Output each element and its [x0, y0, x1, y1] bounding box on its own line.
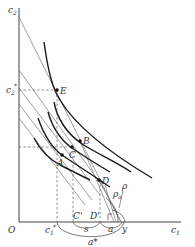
c2-star-sup: *: [14, 82, 17, 89]
c1-star-sub: 1: [50, 229, 54, 236]
label-E: E: [59, 86, 67, 96]
x-axis-label-sub: 1: [176, 229, 180, 236]
label-A: A: [56, 158, 64, 168]
c1-star-sup: *: [53, 223, 56, 230]
c2-star-sub: 2: [10, 89, 15, 96]
y-label: y: [121, 224, 128, 234]
indifference-curve-diagram: E B C A D c 2 c 1 O c 2 * c 1 * C' D' s …: [0, 0, 195, 247]
point-D: [97, 178, 101, 182]
y-axis-label-sub: 2: [12, 9, 17, 16]
point-A: [60, 153, 64, 157]
rho-label: ρ: [121, 181, 128, 191]
point-B: [78, 139, 82, 143]
s-label: s: [84, 224, 89, 234]
a-star-label: a*: [88, 237, 98, 247]
label-B: B: [82, 136, 90, 146]
label-C: C: [69, 150, 76, 160]
origin-label: O: [8, 225, 16, 235]
point-C: [70, 145, 74, 149]
budget-lines: [19, 17, 121, 222]
point-E: [55, 88, 59, 92]
a-label: a: [108, 224, 113, 234]
D-prime-label: D': [89, 211, 100, 221]
C-prime-label: C': [73, 211, 82, 221]
label-D: D: [101, 176, 109, 186]
